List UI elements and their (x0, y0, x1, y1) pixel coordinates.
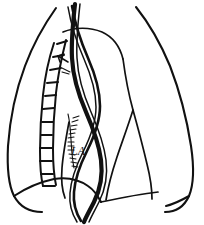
canvas-background (0, 0, 204, 225)
figure-canvas: Chest line drawing Schematic frontal (PA… (0, 0, 204, 225)
chest-line-drawing-figure: Chest line drawing Schematic frontal (PA… (0, 0, 204, 225)
left-atrium-label: LA (70, 144, 86, 158)
